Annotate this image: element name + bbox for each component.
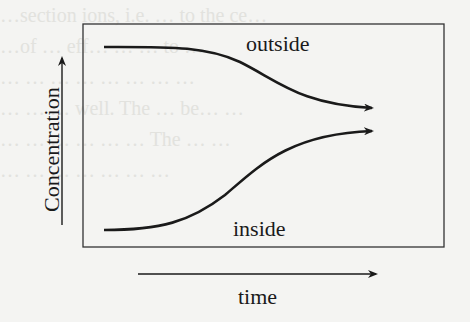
y-axis-label: Concentration [39, 87, 65, 212]
outside-label: outside [246, 31, 310, 57]
x-axis-label: time [238, 284, 277, 310]
inside-label: inside [233, 216, 286, 242]
plot-frame [83, 24, 444, 247]
outside-curve [104, 47, 372, 108]
concentration-diagram [0, 0, 470, 322]
